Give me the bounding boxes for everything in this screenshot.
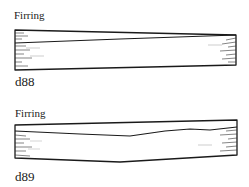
- figure-id: d89: [15, 170, 35, 184]
- firring-board-icon: [0, 0, 249, 187]
